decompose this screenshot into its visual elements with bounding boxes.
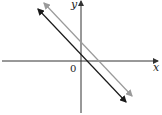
gray-line <box>44 3 132 96</box>
dark-line <box>38 9 126 102</box>
origin-label: 0 <box>70 63 76 74</box>
coordinate-diagram: y x 0 <box>0 0 162 115</box>
y-axis-label: y <box>70 0 78 11</box>
x-axis-label: x <box>153 61 160 74</box>
